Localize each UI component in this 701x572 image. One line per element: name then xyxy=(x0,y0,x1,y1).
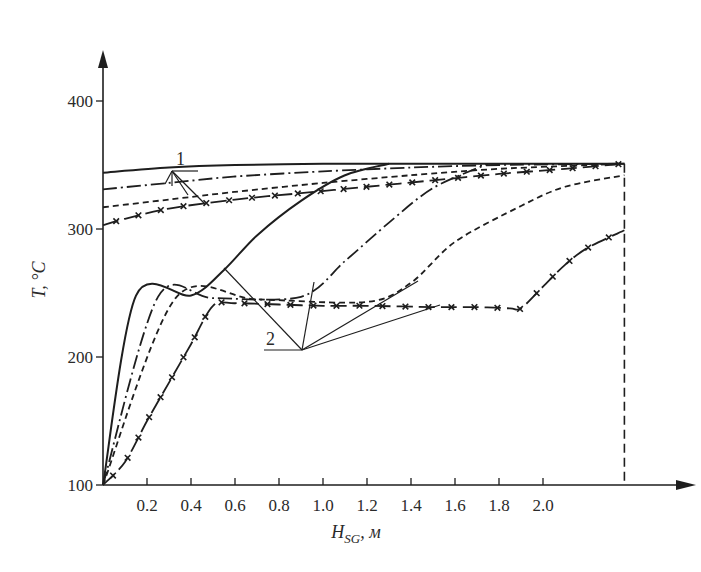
y-tick-label: 400 xyxy=(68,92,94,111)
cross-marker xyxy=(585,245,591,251)
cross-marker xyxy=(567,258,573,264)
x-tick-label: 2.0 xyxy=(532,496,553,515)
x-tick-label: 0.4 xyxy=(180,496,202,515)
x-tick-label: 0.6 xyxy=(224,496,245,515)
x-tick-label: 1.4 xyxy=(400,496,422,515)
x-tick-label: 1.0 xyxy=(312,496,333,515)
cross-marker xyxy=(110,473,116,479)
x-tick-label: 0.2 xyxy=(136,496,157,515)
cross-marker xyxy=(181,355,187,361)
axes xyxy=(96,50,696,490)
annotation-2-leader xyxy=(302,281,418,350)
cross-marker xyxy=(125,455,131,461)
cross-marker xyxy=(606,235,612,241)
annotation-1-leader xyxy=(165,171,172,184)
annotation-2-leader xyxy=(302,305,440,350)
annotation-2-leader xyxy=(224,268,302,350)
axis-labels: 0.20.40.60.81.01.21.41.61.82.01002003004… xyxy=(29,92,554,546)
y-axis-title: T, °C xyxy=(29,261,49,299)
y-tick-label: 100 xyxy=(68,476,94,495)
cross-marker xyxy=(550,274,556,280)
x-tick-label: 1.2 xyxy=(356,496,377,515)
chart: 0.20.40.60.81.01.21.41.61.82.01002003004… xyxy=(0,0,701,572)
annotation-2-label: 2 xyxy=(266,329,275,349)
x-tick-label: 1.6 xyxy=(444,496,465,515)
cross-marker xyxy=(169,374,175,380)
y-tick-label: 200 xyxy=(68,348,94,367)
annotation-1-label: 1 xyxy=(176,149,185,169)
annotation-1-leader xyxy=(172,171,188,195)
cross-marker xyxy=(146,414,152,420)
annotation-leaders xyxy=(165,171,440,350)
cross-marker xyxy=(534,290,540,296)
x-tick-label: 1.8 xyxy=(488,496,509,515)
annotation-2-leader xyxy=(302,282,314,350)
y-axis-arrow-icon xyxy=(98,50,108,68)
cross-marker xyxy=(158,394,164,400)
curve-primary-crossed xyxy=(103,164,624,225)
y-tick-label: 300 xyxy=(68,220,94,239)
curve-secondary-crossed xyxy=(103,230,624,485)
x-axis-arrow-icon xyxy=(676,480,696,490)
cross-marker xyxy=(226,197,232,203)
cross-marker xyxy=(249,195,255,201)
plot-curves xyxy=(103,161,624,485)
cross-marker xyxy=(202,314,208,320)
x-tick-label: 0.8 xyxy=(268,496,289,515)
x-axis-title: HSG, м xyxy=(330,522,381,546)
